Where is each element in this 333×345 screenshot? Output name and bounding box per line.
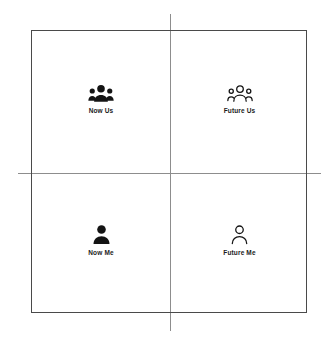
quadrant-now-us[interactable]: Now Us [31,30,171,174]
quadrant-future-us[interactable]: Future Us [171,30,308,174]
group-outline-icon [220,73,260,103]
quadrant-label-now-me: Now Me [88,250,113,257]
quadrant-label-future-me: Future Me [223,250,255,257]
person-filled-icon [81,215,121,245]
group-filled-icon [81,73,121,103]
quadrant-future-me[interactable]: Future Me [171,174,308,313]
person-outline-icon [220,215,260,245]
quadrant-now-me[interactable]: Now Me [31,174,171,313]
quadrant-diagram-canvas: Now Us [0,0,333,345]
quadrant-label-future-us: Future Us [224,108,256,115]
quadrant-label-now-us: Now Us [89,108,114,115]
